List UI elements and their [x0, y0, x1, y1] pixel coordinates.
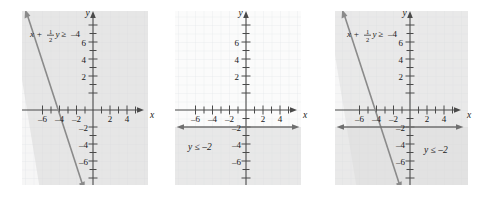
- x-tick-label: 4: [125, 114, 130, 124]
- panel-system-solution: –6 –4 –2 2 4 6 4 2 –2 –4 –6 x y x + 1: [321, 0, 481, 206]
- y-tick-label: 6: [399, 38, 404, 48]
- y-axis-label: y: [402, 8, 408, 18]
- y-tick-label: 2: [235, 72, 240, 82]
- x-tick-label: 2: [261, 114, 266, 124]
- x-axis-label: x: [149, 110, 155, 120]
- panel-first-inequality: –6 –4 –2 2 4 6 4 2 –2 –4 –6 x y x + 1: [0, 0, 160, 206]
- annotation-value: –4: [70, 29, 81, 39]
- figure-container: –6 –4 –2 2 4 6 4 2 –2 –4 –6 x y x + 1: [0, 0, 482, 206]
- y-axis-label: y: [85, 8, 91, 18]
- annotation-denominator: 2: [366, 36, 369, 43]
- x-axis-label: x: [302, 110, 308, 120]
- x-tick-label: 2: [425, 114, 430, 124]
- x-tick-label: –6: [190, 114, 201, 124]
- annotation-variable: y: [55, 29, 60, 39]
- annotation-relation: ≥: [379, 29, 384, 39]
- y-tick-label: 2: [399, 72, 404, 82]
- x-tick-label: –4: [207, 114, 218, 124]
- inequality-annotation-2: y ≤ –2: [187, 142, 212, 152]
- x-tick-label: –4: [54, 114, 65, 124]
- annotation-variable: y: [372, 29, 377, 39]
- annotation-lead: x +: [29, 29, 42, 39]
- x-tick-label: 4: [278, 114, 283, 124]
- x-tick-label: –4: [371, 114, 382, 124]
- inequality-annotation-2: y ≤ –2: [423, 145, 448, 155]
- annotation-denominator: 2: [49, 36, 52, 43]
- y-tick-label: 6: [82, 38, 87, 48]
- annotation-numerator: 1: [49, 28, 52, 35]
- y-tick-label: –6: [395, 157, 406, 167]
- y-tick-label: 6: [235, 38, 240, 48]
- y-tick-label: –6: [231, 157, 242, 167]
- y-tick-label: –2: [231, 123, 241, 133]
- x-tick-label: –6: [37, 114, 48, 124]
- annotation-relation: ≥: [62, 29, 67, 39]
- panel-second-inequality: –6 –4 –2 2 4 6 4 2 –2 –4 –6 x y y ≤ –2: [161, 0, 321, 206]
- y-tick-label: –2: [395, 123, 405, 133]
- graph-canvas-2: –6 –4 –2 2 4 6 4 2 –2 –4 –6 x y y ≤ –2: [161, 0, 321, 206]
- annotation-lead: x +: [346, 29, 359, 39]
- y-tick-label: 4: [82, 55, 87, 65]
- annotation-numerator: 1: [366, 28, 369, 35]
- y-tick-label: 2: [82, 72, 87, 82]
- x-tick-label: 4: [442, 114, 447, 124]
- y-tick-label: 4: [235, 55, 240, 65]
- y-tick-label: –2: [78, 123, 88, 133]
- y-axis-label: y: [238, 8, 244, 18]
- x-axis-label: x: [466, 110, 472, 120]
- graph-canvas-1: –6 –4 –2 2 4 6 4 2 –2 –4 –6 x y x + 1: [0, 0, 160, 206]
- y-tick-label: –4: [231, 140, 242, 150]
- y-tick-label: –4: [395, 140, 406, 150]
- x-tick-label: –6: [354, 114, 365, 124]
- x-tick-label: 2: [108, 114, 113, 124]
- y-tick-label: 4: [399, 55, 404, 65]
- graph-canvas-3: –6 –4 –2 2 4 6 4 2 –2 –4 –6 x y x + 1: [321, 0, 482, 206]
- y-tick-label: –6: [78, 157, 89, 167]
- y-tick-label: –4: [78, 140, 89, 150]
- annotation-value: –4: [387, 29, 398, 39]
